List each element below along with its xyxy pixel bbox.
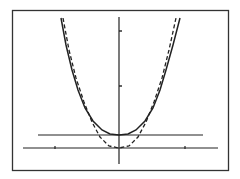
graph-plot [0,0,240,179]
plot-frame [13,11,229,171]
